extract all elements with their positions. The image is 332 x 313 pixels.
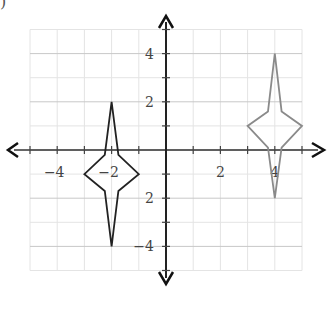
x-tick-label: −4 [44,164,65,180]
coordinate-plane: −4−224422−4 [0,0,332,313]
y-tick-label: −4 [133,238,154,254]
axes [8,16,324,284]
y-tick-label: 2 [145,94,154,110]
y-tick-label: 4 [145,46,154,62]
x-tick-label: −2 [98,164,119,180]
y-tick-label: 2 [145,190,154,206]
x-tick-label: 2 [216,164,225,180]
